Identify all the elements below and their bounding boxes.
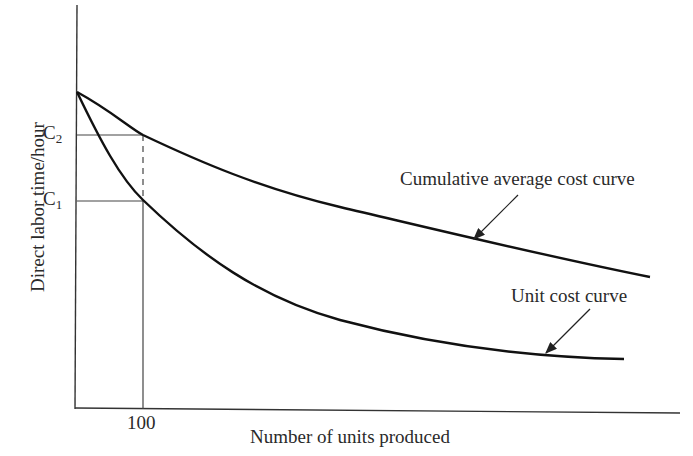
cumulative-curve-label: Cumulative average cost curve [400, 168, 635, 190]
c1-subscript: 1 [56, 197, 63, 212]
cumulative-pointer-arrow [474, 195, 518, 239]
c2-subscript: 2 [56, 131, 63, 146]
x-axis-label: Number of units produced [250, 426, 450, 448]
unit-pointer-arrow [546, 309, 590, 353]
unit-curve-label: Unit cost curve [511, 285, 627, 307]
y-axis [75, 5, 77, 409]
c1-letter: C [43, 188, 56, 209]
unit-cost-curve [77, 92, 624, 359]
c2-letter: C [43, 122, 56, 143]
x-axis [75, 408, 680, 413]
y-tick-c1: C1 [43, 188, 62, 213]
chart-canvas [0, 0, 693, 456]
y-tick-c2: C2 [43, 122, 62, 147]
x-tick-100: 100 [127, 412, 156, 434]
